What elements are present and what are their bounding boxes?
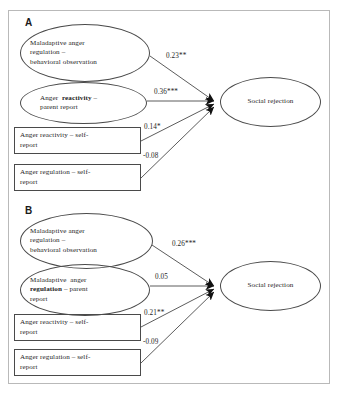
panel-a-node-anger-regulation-self-report: Anger regulation – self- report [14,164,141,191]
path-diagram-figure: A Maladaptive anger regulation – behavio… [0,0,341,393]
node-label: Social rejection [221,97,320,106]
panel-a-node-maladaptive-anger-regulation-behavioral-observation: Maladaptive anger regulation – behaviora… [20,24,150,82]
node-label: Maladaptive anger regulation – behaviora… [21,39,149,67]
panel-a-coefficient-4: -0.08 [143,153,158,160]
panel-a-coefficient-3: 0.14* [144,124,161,131]
panel-a-node-social-rejection: Social rejection [220,77,321,127]
panel-label-b: B [25,206,32,216]
node-label: Maladaptive anger regulation – parent re… [21,276,149,304]
panel-a-coefficient-2: 0.36*** [154,89,178,96]
panel-b-coefficient-3: 0.21** [144,310,164,317]
node-label: Maladaptive anger regulation – behaviora… [21,227,152,255]
panel-b-node-social-rejection: Social rejection [220,261,321,311]
panel-b-coefficient-4: -0.09 [143,339,158,346]
panel-b-node-anger-regulation-self-report: Anger regulation – self- report [14,349,141,376]
node-label: Anger regulation – self- report [15,168,140,187]
panel-a-coefficient-1: 0.23** [166,53,186,60]
panel-b-node-maladaptive-anger-regulation-behavioral-observation: Maladaptive anger regulation – behaviora… [20,213,153,269]
node-label: Social rejection [221,281,320,290]
node-label: Anger reactivity – parent report [21,94,146,113]
node-label: Anger reactivity – self- report [15,131,140,150]
node-label: Anger reactivity – self- report [15,318,140,337]
panel-b-coefficient-1: 0.26*** [172,241,196,248]
panel-b-coefficient-2: 0.05 [155,274,168,281]
panel-a-node-anger-reactivity-self-report: Anger reactivity – self- report [14,127,141,154]
panel-b-node-anger-reactivity-self-report: Anger reactivity – self- report [14,314,141,341]
panel-label-a: A [25,18,32,28]
node-label: Anger regulation – self- report [15,353,140,372]
panel-a-node-anger-reactivity-parent-report: Anger reactivity – parent report [20,82,147,124]
panel-b-node-maladaptive-anger-regulation-parent-report: Maladaptive anger regulation – parent re… [20,264,150,316]
